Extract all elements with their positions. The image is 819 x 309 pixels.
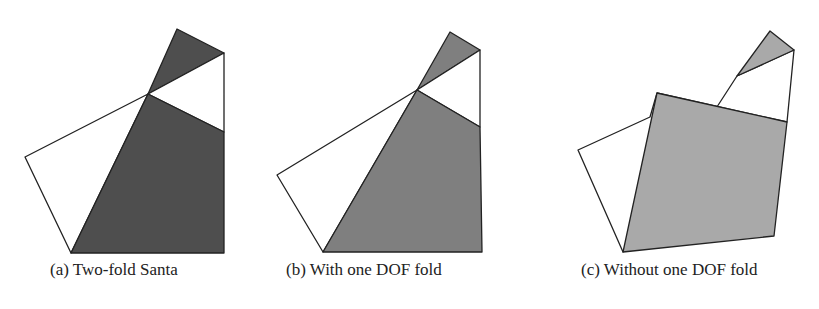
caption-c: (c) Without one DOF fold bbox=[581, 260, 758, 280]
caption-a: (a) Two-fold Santa bbox=[50, 260, 178, 280]
subfigure-c bbox=[578, 31, 794, 252]
subfigure-b bbox=[277, 32, 482, 252]
c-folded-square bbox=[623, 93, 787, 252]
caption-b: (b) With one DOF fold bbox=[286, 260, 442, 280]
subfigure-a bbox=[25, 29, 224, 253]
